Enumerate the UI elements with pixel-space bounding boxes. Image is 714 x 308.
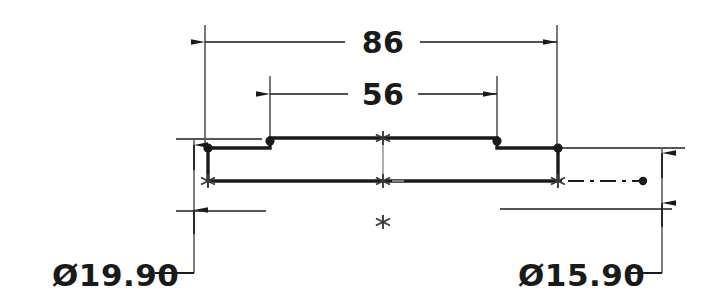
dot-right-top [553, 143, 562, 152]
dot-step-right-top [492, 136, 501, 145]
dot-left-top [203, 143, 212, 152]
dim-label-56: 56 [362, 77, 405, 112]
drawing-svg-surface: 86 56 Ø19.90 Ø15.90 [0, 0, 714, 308]
dim-label-diameter-left: Ø19.90 [52, 257, 179, 293]
centerline-end-dot [639, 177, 647, 185]
dot-step-left-top [265, 136, 274, 145]
technical-drawing-canvas: 86 56 Ø19.90 Ø15.90 [0, 0, 714, 308]
dim-label-diameter-right: Ø15.90 [518, 257, 645, 293]
dim-label-86: 86 [362, 25, 405, 60]
